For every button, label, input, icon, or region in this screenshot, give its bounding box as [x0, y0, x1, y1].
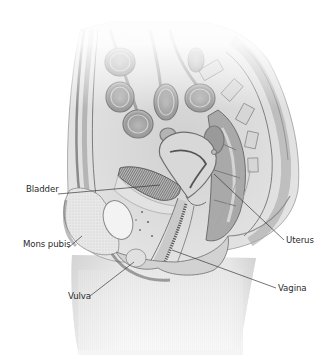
- label-vagina: Vagina: [278, 283, 306, 293]
- label-vulva: Vulva: [68, 291, 91, 301]
- label-uterus: Uterus: [286, 235, 314, 245]
- label-bladder: Bladder: [26, 184, 59, 194]
- anatomy-diagram: Bladder Mons pubis Vulva Uterus Vagina: [0, 0, 332, 363]
- label-mons-pubis: Mons pubis: [23, 239, 71, 249]
- pelvis-illustration: [0, 0, 332, 363]
- top-fade: [0, 0, 332, 363]
